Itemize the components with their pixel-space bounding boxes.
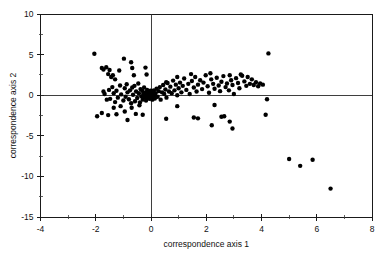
y-tick-label: 10	[24, 9, 34, 19]
data-point	[123, 109, 127, 113]
data-point	[123, 86, 127, 90]
data-point	[182, 76, 186, 80]
data-point	[234, 76, 238, 80]
data-point	[144, 72, 148, 76]
data-point	[193, 75, 197, 79]
x-tick-label: -2	[92, 224, 100, 234]
data-point	[179, 90, 183, 94]
data-point	[328, 186, 332, 190]
data-point	[172, 88, 176, 92]
data-point	[100, 111, 104, 115]
data-point	[208, 71, 212, 75]
data-point	[107, 88, 111, 92]
data-point	[216, 83, 220, 87]
data-point	[200, 87, 204, 91]
data-point	[137, 103, 141, 107]
x-tick-label: -4	[37, 224, 45, 234]
data-point	[114, 112, 118, 116]
data-point	[196, 116, 200, 120]
data-point	[207, 91, 211, 95]
data-point	[298, 164, 302, 168]
data-point	[129, 101, 133, 105]
data-point	[222, 114, 226, 118]
data-point	[162, 92, 166, 96]
data-point	[192, 115, 196, 119]
x-tick-label: 8	[370, 224, 375, 234]
data-point	[175, 93, 179, 97]
data-points-group	[92, 51, 333, 191]
data-point	[168, 84, 172, 88]
data-point	[210, 123, 214, 127]
data-point	[110, 85, 114, 89]
y-axis-title: correspondence axis 2	[8, 72, 18, 158]
data-point	[265, 97, 269, 101]
data-point	[194, 89, 198, 93]
data-point	[228, 119, 232, 123]
data-point	[239, 72, 243, 76]
data-point	[230, 83, 234, 87]
data-point	[201, 80, 205, 84]
x-tick-label: 4	[259, 224, 264, 234]
data-point	[232, 92, 236, 96]
data-point	[245, 75, 249, 79]
data-point	[176, 86, 180, 90]
data-point	[196, 82, 200, 86]
data-point	[211, 82, 215, 86]
data-point	[107, 68, 111, 72]
data-point	[209, 77, 213, 81]
data-point	[132, 84, 136, 88]
data-point	[189, 72, 193, 76]
data-point	[175, 75, 179, 79]
data-point	[190, 79, 194, 83]
data-point	[134, 112, 138, 116]
data-point	[227, 88, 231, 92]
data-point	[263, 112, 267, 116]
data-point	[236, 81, 240, 85]
data-point	[219, 80, 223, 84]
data-point	[118, 104, 122, 108]
data-point	[92, 52, 96, 56]
data-point	[254, 80, 258, 84]
data-point	[129, 106, 133, 110]
data-point	[225, 81, 229, 85]
data-point	[171, 78, 175, 82]
data-point	[132, 73, 136, 77]
reference-lines-group	[41, 14, 373, 217]
data-point	[228, 73, 232, 77]
data-point	[125, 118, 129, 122]
data-point	[287, 157, 291, 161]
data-point	[229, 78, 233, 82]
y-tick-label: 0	[29, 90, 34, 100]
data-point	[266, 51, 270, 55]
data-point	[164, 80, 168, 84]
data-point	[95, 114, 99, 118]
data-point	[310, 158, 314, 162]
data-point	[164, 117, 168, 121]
data-point	[186, 82, 190, 86]
correspondence-analysis-scatter: 1050-5-10-15-4-202468correspondence axis…	[0, 0, 387, 261]
data-point	[119, 92, 123, 96]
data-point	[164, 95, 168, 99]
data-point	[184, 88, 188, 92]
data-point	[117, 68, 121, 72]
data-point	[111, 73, 115, 77]
data-point	[187, 92, 191, 96]
data-point	[230, 126, 234, 130]
data-point	[215, 76, 219, 80]
y-tick-label: -10	[21, 171, 34, 181]
y-tick-label: -15	[21, 212, 34, 222]
data-point	[221, 74, 225, 78]
data-point	[102, 92, 106, 96]
data-point	[158, 97, 162, 101]
data-point	[248, 82, 252, 86]
data-point	[204, 73, 208, 77]
data-point	[113, 100, 117, 104]
data-point	[175, 104, 179, 108]
data-point	[122, 56, 126, 60]
data-point	[113, 77, 117, 81]
data-point	[174, 82, 178, 86]
x-tick-label: 0	[149, 224, 154, 234]
data-point	[116, 95, 120, 99]
y-tick-label: -5	[26, 131, 34, 141]
data-point	[114, 89, 118, 93]
